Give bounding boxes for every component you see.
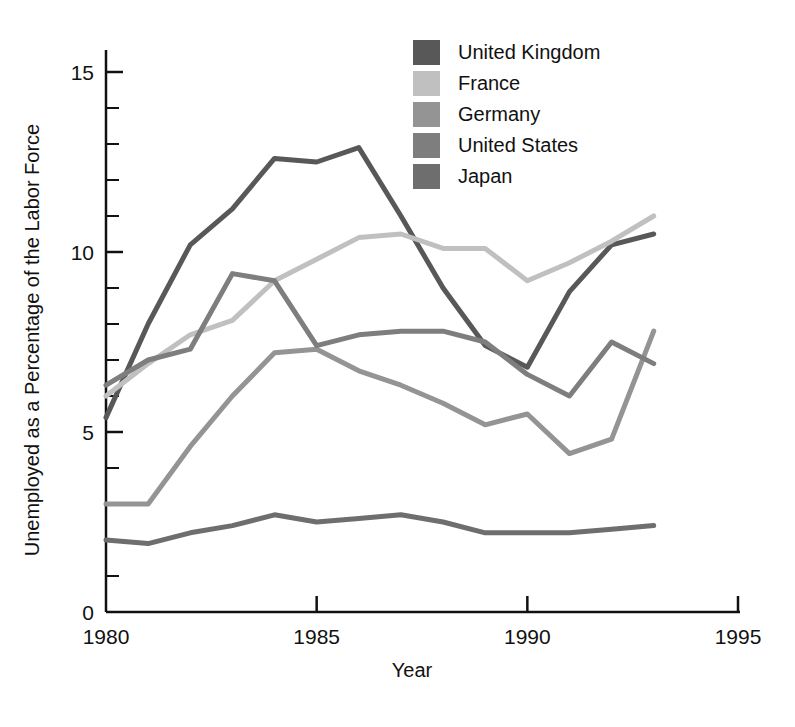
legend-label: United Kingdom xyxy=(458,41,600,63)
legend-swatch xyxy=(413,71,440,96)
line-chart: 051015 1980198519901995 United KingdomFr… xyxy=(0,0,795,727)
chart-background xyxy=(0,0,795,727)
x-tick-label: 1985 xyxy=(293,625,340,648)
legend-swatch xyxy=(413,164,440,189)
x-tick-label: 1990 xyxy=(504,625,551,648)
legend-swatch xyxy=(413,133,440,158)
legend-label: Japan xyxy=(458,165,513,187)
y-tick-label: 0 xyxy=(82,601,94,624)
legend-swatch xyxy=(413,102,440,127)
legend-label: Germany xyxy=(458,103,540,125)
x-axis-title: Year xyxy=(392,659,433,681)
legend-swatch xyxy=(413,40,440,65)
legend-label: France xyxy=(458,72,520,94)
legend-label: United States xyxy=(458,134,578,156)
y-tick-label: 15 xyxy=(71,61,94,84)
x-tick-label: 1995 xyxy=(715,625,762,648)
y-tick-label: 10 xyxy=(71,241,94,264)
chart-container: 051015 1980198519901995 United KingdomFr… xyxy=(0,0,795,727)
y-tick-label: 5 xyxy=(82,421,94,444)
y-axis-title: Unemployed as a Percentage of the Labor … xyxy=(21,124,43,556)
x-tick-label: 1980 xyxy=(83,625,130,648)
